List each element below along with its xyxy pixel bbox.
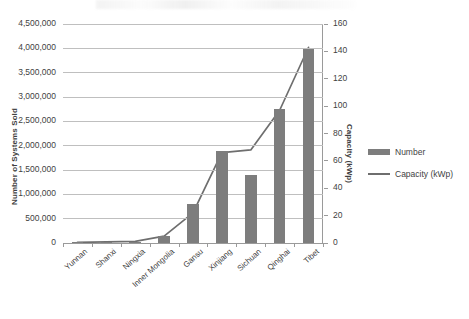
legend-label: Number (395, 147, 425, 157)
y-axis-left-tick-label: 3,500,000 (18, 68, 56, 77)
bar-shanxi (101, 242, 113, 243)
gridline (63, 72, 323, 73)
bar-qinghai (274, 109, 286, 243)
x-axis-labels: YunnanShanxiNingxiaInner MongoliaGansuXi… (63, 245, 323, 317)
y-axis-right-tickmark (324, 243, 328, 244)
y-axis-right-tickmark (324, 51, 328, 52)
y-axis-right-tick-label: 160 (333, 19, 347, 28)
chart-container: Number of Systems Sold Capacity (kWp) 05… (0, 0, 469, 319)
bar-yunnan (72, 242, 84, 243)
y-axis-left-tick-label: 4,500,000 (18, 19, 56, 28)
y-axis-right-tick-label: 140 (333, 46, 347, 55)
y-axis-left-tick-label: 4,000,000 (18, 43, 56, 52)
y-axis-right-tickmark (324, 133, 328, 134)
chart-legend: NumberCapacity (kWp) (368, 145, 453, 189)
y-axis-right-tickmark (324, 188, 328, 189)
scan-artifact (96, 0, 356, 9)
bar-ningxia (129, 242, 141, 243)
y-axis-left-tick-label: 1,000,000 (18, 189, 56, 198)
legend-item: Number (368, 145, 453, 159)
y-axis-right-tick-label: 80 (333, 129, 342, 138)
gridline (63, 97, 323, 98)
y-axis-left-tick-label: 3,000,000 (18, 92, 56, 101)
plot-area: 0500,0001,000,0001,500,0002,000,0002,500… (63, 24, 323, 243)
y-axis-right-tick-label: 0 (333, 238, 338, 247)
y-axis-right-title: Capacity (kWp) (345, 94, 354, 214)
y-axis-right-tick-label: 40 (333, 183, 342, 192)
y-axis-right-tick-label: 60 (333, 156, 342, 165)
y-axis-right-tickmark (324, 106, 328, 107)
legend-item: Capacity (kWp) (368, 167, 453, 181)
bar-sichuan (245, 175, 257, 243)
gridline (63, 24, 323, 25)
bar-xinjiang (216, 151, 228, 243)
legend-bar-swatch-icon (368, 149, 390, 155)
legend-line-swatch-icon (368, 173, 390, 175)
y-axis-right-tick-label: 20 (333, 211, 342, 220)
bar-gansu (187, 204, 199, 243)
y-axis-left-tick-label: 1,500,000 (18, 165, 56, 174)
bar-tibet (303, 49, 315, 243)
y-axis-right-tick-label: 120 (333, 74, 347, 83)
y-axis-left-tick-label: 2,500,000 (18, 116, 56, 125)
legend-label: Capacity (kWp) (395, 169, 453, 179)
y-axis-right-tickmark (324, 160, 328, 161)
bar-inner-mongolia (158, 236, 170, 243)
y-axis-right-tick-label: 100 (333, 101, 347, 110)
y-axis-right-tickmark (324, 215, 328, 216)
y-axis-right-tickmark (324, 78, 328, 79)
y-axis-left-tick-label: 2,000,000 (18, 141, 56, 150)
y-axis-left-tick-label: 0 (51, 238, 56, 247)
y-axis-left-tick-label: 500,000 (25, 214, 56, 223)
y-axis-left-title: Number of Systems Sold (10, 97, 19, 217)
gridline (63, 48, 323, 49)
y-axis-right-tickmark (324, 24, 328, 25)
x-axis-tickmark (323, 243, 324, 247)
